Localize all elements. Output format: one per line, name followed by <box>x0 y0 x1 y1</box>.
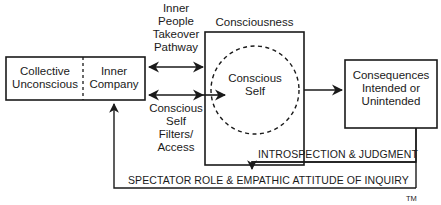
takeover-pathway-label: Inner People Takeover Pathway <box>146 2 206 54</box>
trademark-mark: TM <box>406 194 417 203</box>
spectator-role-label: SPECTATOR ROLE & EMPATHIC ATTITUDE OF IN… <box>128 174 409 186</box>
consequences-label: Consequences Intended or Unintended <box>345 69 437 108</box>
inner-company-label: Inner Company <box>84 65 144 91</box>
introspection-judgment-label: INTROSPECTION & JUDGMENT <box>258 148 418 160</box>
filters-access-label: Conscious Self Filters/ Access <box>146 102 206 154</box>
consciousness-box <box>205 32 304 165</box>
conscious-self-label: Conscious Self <box>219 72 291 98</box>
collective-unconscious-label: Collective Unconscious <box>8 65 82 91</box>
consciousness-label: Consciousness <box>205 16 304 29</box>
